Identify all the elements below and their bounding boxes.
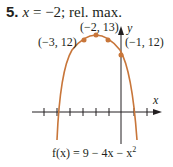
label-point-vertex: (−2, 13) (80, 20, 119, 35)
x-axis-label: x (153, 93, 158, 108)
label-point-left: (−3, 12) (38, 35, 77, 50)
x-axis-arrow-icon (153, 109, 162, 115)
point-y-intercept (119, 53, 124, 58)
y-axis-label: y (127, 21, 132, 36)
function-exponent: 2 (132, 145, 136, 154)
point-right (106, 38, 111, 43)
function-text: f(x) = 9 − 4x − x (52, 146, 132, 160)
parabola-curve (57, 35, 137, 140)
point-left (82, 38, 87, 43)
function-caption: f(x) = 9 − 4x − x2 (52, 145, 136, 161)
y-axis-arrow-icon (118, 26, 124, 35)
label-point-right: (−1, 12) (125, 35, 164, 50)
